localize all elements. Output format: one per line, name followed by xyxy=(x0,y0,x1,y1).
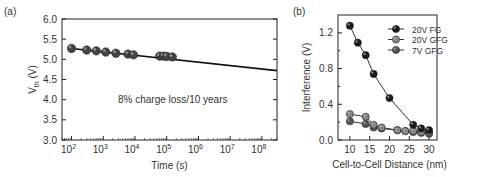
data-point xyxy=(346,111,353,118)
x-tick-label: 105 xyxy=(156,143,171,155)
data-point xyxy=(354,39,361,46)
data-point xyxy=(362,120,369,127)
data-point xyxy=(67,44,75,52)
data-point xyxy=(168,53,176,61)
y-tick-label: 1.2 xyxy=(319,27,333,38)
panel-a: (a)3.03.54.04.55.05.56.01021031041051061… xyxy=(4,6,277,171)
data-point xyxy=(346,22,353,29)
data-point xyxy=(92,47,100,55)
data-point xyxy=(102,48,110,56)
x-tick-label: 103 xyxy=(93,143,108,155)
data-point xyxy=(362,113,369,120)
legend-entry: 7V GFG xyxy=(412,46,443,56)
panel-label-b: (b) xyxy=(293,6,305,17)
panel-label-a: (a) xyxy=(4,6,16,17)
x-tick-label: 108 xyxy=(251,143,266,155)
data-point xyxy=(346,118,353,125)
data-point xyxy=(394,127,401,134)
data-point xyxy=(386,94,393,101)
y-tick-label: 5.5 xyxy=(43,34,57,45)
x-axis-label-b: Cell-to-Cell Distance (nm) xyxy=(332,159,446,170)
data-point xyxy=(362,52,369,59)
y-tick-label: 4.0 xyxy=(43,94,57,105)
data-point xyxy=(425,127,432,134)
data-point xyxy=(410,121,417,128)
data-point xyxy=(370,70,377,77)
x-axis-label-a: Time (s) xyxy=(151,160,187,171)
data-point xyxy=(418,125,425,132)
data-point xyxy=(82,46,90,54)
y-tick-label: 4.5 xyxy=(43,74,57,85)
x-tick-label: 30 xyxy=(424,144,436,155)
legend-marker xyxy=(392,46,399,53)
x-tick-label: 15 xyxy=(364,144,376,155)
x-tick-label: 102 xyxy=(61,143,76,155)
y-tick-label: 6.0 xyxy=(43,14,57,25)
data-point xyxy=(129,51,137,59)
y-tick-label: 3.5 xyxy=(43,114,57,125)
y-tick-label: 5.0 xyxy=(43,54,57,65)
plot-frame-a xyxy=(62,19,277,140)
legend-entry: 20V FG xyxy=(412,25,441,35)
data-point xyxy=(370,121,377,128)
x-tick-label: 25 xyxy=(404,144,416,155)
legend-marker xyxy=(392,36,399,43)
y-axis-label-b: Interference (V) xyxy=(301,43,312,112)
y-tick-label: 0.4 xyxy=(319,99,333,110)
legend-marker xyxy=(392,25,399,32)
x-tick-label: 10 xyxy=(344,144,356,155)
data-point xyxy=(402,127,409,134)
x-tick-label: 20 xyxy=(384,144,396,155)
y-tick-label: 0.8 xyxy=(319,63,333,74)
chart-canvas: (a)3.03.54.04.55.05.56.01021031041051061… xyxy=(0,0,477,177)
figure: (a)3.03.54.04.55.05.56.01021031041051061… xyxy=(0,0,477,177)
y-axis-label-a: Vth (V) xyxy=(27,65,40,94)
annotation: 8% charge loss/10 years xyxy=(118,94,228,105)
x-tick-label: 104 xyxy=(124,143,139,155)
x-tick-label: 106 xyxy=(188,143,203,155)
legend: 20V FG20V GFG7V GFG xyxy=(388,25,448,56)
y-tick-label: 0.0 xyxy=(319,135,333,146)
legend-entry: 20V GFG xyxy=(412,35,448,45)
y-tick-label: 3.0 xyxy=(43,135,57,146)
x-tick-label: 107 xyxy=(220,143,235,155)
data-point xyxy=(112,49,120,57)
data-point xyxy=(378,124,385,131)
panel-b: (b)0.00.40.81.21015202530Cell-to-Cell Di… xyxy=(293,6,448,170)
